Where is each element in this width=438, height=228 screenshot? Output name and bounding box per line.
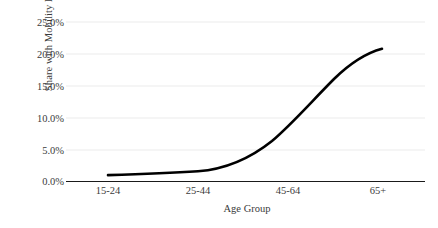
x-tick-label-45-64: 45-64 [248,186,328,197]
chart-container: 25.0% 20.0% 15.0% 10.0% 5.0% 0.0% Share … [0,0,438,228]
x-tick-label-65plus: 65+ [338,186,418,197]
x-axis-title: Age Group [224,203,271,214]
x-axis-title-wrapper: Age Group [0,203,438,214]
x-tick-label-25-44: 25-44 [158,186,238,197]
x-tick-label-15-24: 15-24 [68,186,148,197]
gridlines [66,22,425,150]
data-line-share-with-mobility-disabilities [108,49,382,175]
